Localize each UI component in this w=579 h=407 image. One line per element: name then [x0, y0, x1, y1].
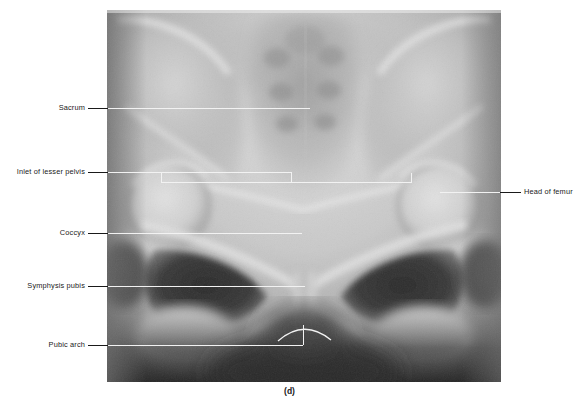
label-inlet-of-lesser-pelvis: Inlet of lesser pelvis [0, 167, 85, 176]
head-of-femur-leader-line-inner [440, 192, 500, 193]
coccyx-leader-line-inner [107, 233, 302, 234]
inlet-of-lesser-pelvis-leader-line-inner [107, 172, 291, 173]
pubic-arch-leader-line-inner [107, 345, 303, 346]
label-head-of-femur: Head of femur [524, 187, 573, 196]
symphysis-pubis-leader-line-inner [107, 286, 305, 287]
radiograph-figure: Sacrum Inlet of lesser pelvis Coccyx Sym… [0, 0, 579, 407]
label-sacrum: Sacrum [0, 103, 85, 112]
pelvis-radiograph [107, 10, 501, 382]
label-coccyx: Coccyx [0, 228, 85, 237]
coccyx-leader-dash [88, 233, 108, 234]
symphysis-pubis-leader-dash [88, 286, 108, 287]
pubic-arch-leader-dash [88, 345, 108, 346]
xray-image-plate [107, 10, 501, 382]
sacrum-leader-line-inner [107, 108, 310, 109]
label-symphysis-pubis: Symphysis pubis [0, 281, 85, 290]
inlet-of-lesser-pelvis-leader-dash [88, 172, 108, 173]
label-pubic-arch: Pubic arch [0, 340, 85, 349]
figure-caption: (d) [0, 386, 579, 396]
head-of-femur-leader-dash [500, 192, 521, 193]
sacrum-leader-dash [88, 108, 108, 109]
